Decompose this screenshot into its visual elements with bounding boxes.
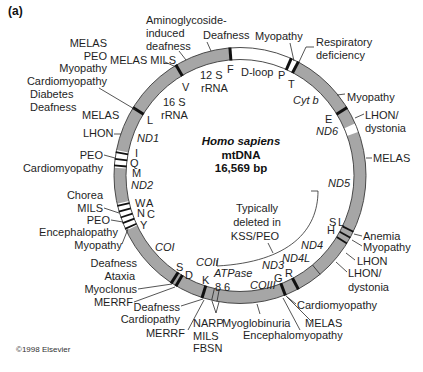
pointer-myopathy-wancy — [122, 229, 128, 244]
trna-label-d: D — [185, 269, 193, 281]
label-lys-deafness: Deafness — [134, 301, 181, 313]
gene-16s-rrna-line1: 16 S — [163, 96, 186, 108]
pointer-his-myopathy — [352, 240, 362, 246]
label-ser-myoclonus: Myoclonus — [84, 283, 137, 295]
label-leu-cardiomyopathy: Cardiomyopathy — [27, 75, 108, 87]
gene-labels: 12 S rRNA 16 S rRNA D-loop Cyt b ND6 ND5… — [131, 66, 351, 293]
label-ser-deafness: Deafness — [91, 257, 138, 269]
pointer-respiratory — [299, 47, 314, 62]
pointer-merrf-left — [134, 287, 175, 302]
label-aminoglycoside-1: Aminoglycoside- — [146, 14, 227, 26]
genome-title: Homo sapiens mtDNA 16,569 bp — [202, 135, 281, 174]
trna-label-t: T — [288, 78, 295, 90]
label-atpase-mils: MILS — [193, 330, 219, 342]
pointer-mils — [104, 208, 119, 213]
label-leu-peo: PEO — [84, 50, 108, 62]
gene-nd1: ND1 — [137, 132, 159, 144]
disease-labels: Aminoglycoside- induced deafness Deafnes… — [23, 14, 411, 354]
ring-band — [120, 54, 360, 298]
panel-label: (a) — [8, 4, 23, 18]
gene-atp8: 8 — [215, 281, 221, 293]
trna-label-k: K — [202, 274, 210, 286]
deletion-pointer — [268, 243, 273, 253]
label-leu-diabetes: Diabetes — [30, 88, 74, 100]
label-his-anemia: Anemia — [363, 230, 401, 242]
gene-coii: COII — [196, 256, 219, 268]
trna-label-y: Y — [140, 219, 148, 231]
label-leu-deafness: Deafness — [30, 101, 77, 113]
label-leu-melas-2: MELAS — [82, 109, 119, 121]
gene-nd6: ND6 — [316, 125, 339, 137]
gene-coiii: COIII — [250, 279, 276, 291]
pointer-cytb-myopathy — [337, 94, 345, 95]
label-nd6-lhon-dystonia-1: LHON/ — [365, 109, 400, 121]
label-lys-merrf: MERRF — [146, 327, 185, 339]
label-nd4-lhon-dystonia-2: dystonia — [348, 281, 390, 293]
species-name: Homo sapiens — [202, 135, 281, 147]
gene-dloop: D-loop — [241, 66, 273, 78]
ring-inner-edge — [126, 60, 354, 292]
pointer-trna-ile — [104, 155, 115, 158]
gene-16s-rrna-line2: rRNA — [161, 109, 189, 121]
pointer-nd4-lhon — [346, 253, 355, 260]
label-respiratory-2: deficiency — [316, 49, 365, 61]
copyright-text: ©1998 Elsevier — [16, 345, 71, 354]
trna-label-p: P — [278, 69, 285, 81]
pointer-nd6-lhon — [355, 114, 364, 118]
label-ser-ataxia: Ataxia — [104, 270, 135, 282]
label-dloop-myopathy: Myopathy — [255, 30, 303, 42]
trna-label-c: C — [147, 208, 155, 220]
label-wancy-peo: PEO — [87, 214, 111, 226]
gene-nd2: ND2 — [131, 179, 153, 191]
label-wancy-encephalopathy: Encephalopathy — [39, 226, 118, 238]
label-val-melas-mils: MELAS MILS — [110, 54, 176, 66]
pointer-cardiomyopathy-gly — [286, 296, 296, 304]
label-ile-peo: PEO — [80, 149, 104, 161]
label-cytb-myopathy: Myopathy — [347, 91, 395, 103]
trna-label-f: F — [227, 63, 234, 75]
gene-nd4: ND4 — [301, 239, 323, 251]
label-nd4-lhon-dystonia-1: LHON/ — [348, 267, 383, 279]
gene-atpase: ATPase — [213, 267, 252, 279]
gene-atp6: 6 — [224, 281, 230, 293]
gene-cytb: Cyt b — [293, 94, 319, 106]
label-nd4-lhon: LHON — [357, 255, 388, 267]
pointer-12s-deafness — [207, 42, 211, 51]
label-ser-merrf: MERRF — [94, 296, 133, 308]
gene-12s-rrna-line2: rRNA — [201, 82, 229, 94]
gene-nd4l: ND4L — [282, 252, 310, 264]
trna-label-e: E — [325, 113, 332, 125]
deletion-note-line1: Typically — [236, 202, 279, 214]
trna-label-h: H — [327, 224, 335, 236]
label-gly-encephalomyopathy: Encephalomyopathy — [243, 329, 343, 341]
trna-label-l2: L — [338, 216, 344, 228]
label-nd6-lhon-dystonia-2: dystonia — [365, 122, 407, 134]
molecule-name: mtDNA — [222, 149, 261, 161]
pointer-nd4-lhon-dystonia — [336, 262, 347, 272]
label-gly-cardiomyopathy: Cardiomyopathy — [297, 299, 378, 311]
trna-label-r: R — [285, 267, 293, 279]
deletion-note-line2: deleted in — [233, 216, 281, 228]
trna-label-m: M — [132, 167, 141, 179]
label-coiii-myoglobinuria: Myoglobinuria — [222, 317, 291, 329]
trna-label-v: V — [182, 81, 190, 93]
genome-length: 16,569 bp — [215, 162, 267, 174]
label-wancy-mils: MILS — [77, 202, 103, 214]
gene-nd5: ND5 — [328, 177, 351, 189]
mtdna-ring — [114, 48, 366, 304]
label-nd5-melas: MELAS — [373, 152, 410, 164]
pointer-peo — [111, 220, 123, 222]
label-respiratory-1: Respiratory — [316, 36, 373, 48]
trna-label-s1: S — [176, 261, 183, 273]
pointer-trna-leu — [99, 88, 136, 110]
pointer-myoglobinuria — [257, 304, 260, 314]
label-aminoglycoside-3: deafness — [146, 40, 191, 52]
pointer-aminoglycoside — [179, 51, 186, 60]
mtdna-map-diagram: (a) ©1998 Elsevier — [0, 0, 423, 372]
gene-12s-rrna-line1: 12 S — [200, 69, 223, 81]
label-leu-myopathy: Myopathy — [59, 62, 107, 74]
pointer-deafness-lys — [181, 299, 203, 306]
trna-label-g: G — [274, 272, 283, 284]
label-atpase-narp: NARP — [193, 317, 224, 329]
label-nd1-lhon: LHON — [83, 127, 114, 139]
